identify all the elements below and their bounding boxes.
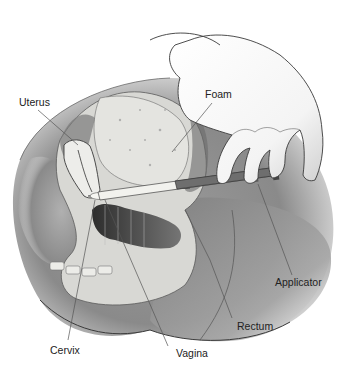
label-foam: Foam bbox=[205, 89, 232, 100]
cross-section bbox=[50, 92, 208, 305]
label-cervix: Cervix bbox=[50, 345, 80, 356]
label-uterus: Uterus bbox=[19, 97, 50, 108]
label-vagina: Vagina bbox=[176, 348, 208, 359]
anatomy-illustration bbox=[0, 0, 343, 379]
label-rectum: Rectum bbox=[237, 321, 273, 332]
label-applicator: Applicator bbox=[275, 277, 322, 288]
